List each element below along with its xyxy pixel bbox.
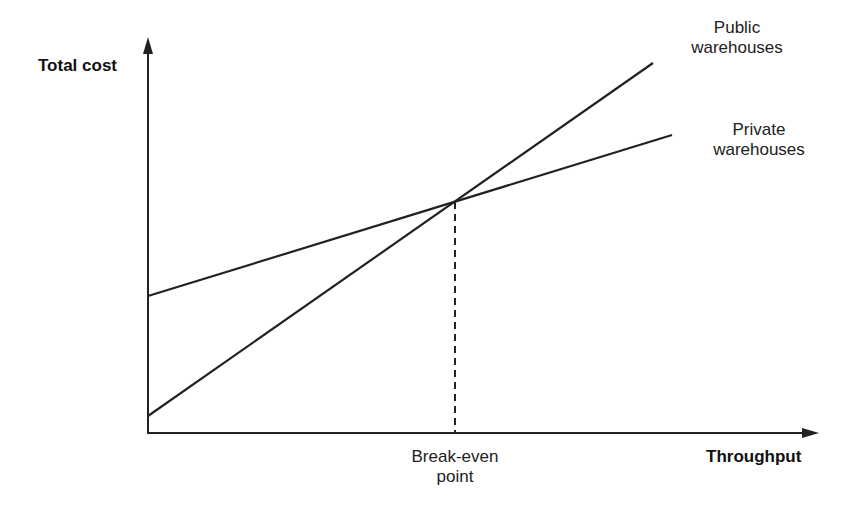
private-label-line2: warehouses (694, 140, 824, 160)
break-even-label-line1: Break-even (395, 447, 515, 467)
chart-canvas (0, 0, 849, 514)
public-label-line1: Public (672, 18, 802, 38)
y-axis-arrow-icon (143, 37, 153, 54)
public-warehouses-line (148, 63, 653, 416)
y-axis-label: Total cost (38, 56, 117, 76)
private-label-line1: Private (694, 120, 824, 140)
public-label-line2: warehouses (672, 38, 802, 58)
break-even-label: Break-even point (395, 447, 515, 487)
x-axis-arrow-icon (802, 428, 819, 438)
break-even-label-line2: point (395, 467, 515, 487)
x-axis-label: Throughput (706, 447, 801, 467)
private-warehouses-line (148, 135, 672, 296)
public-warehouses-label: Public warehouses (672, 18, 802, 58)
private-warehouses-label: Private warehouses (694, 120, 824, 160)
